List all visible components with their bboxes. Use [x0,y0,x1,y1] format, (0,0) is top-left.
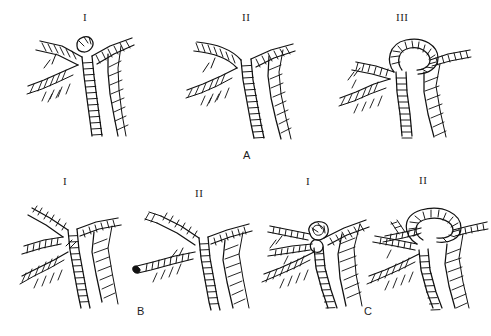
panel-label-c-i: I [306,176,310,187]
panel-c-ii [355,188,491,310]
vessel-group [367,208,488,310]
group-label-c: C [364,306,372,317]
figure-root: I [0,0,491,336]
panel-label-a-iii: III [396,12,409,23]
group-label-a: A [243,150,250,161]
panel-label-a-i: I [83,12,87,23]
group-label-b: B [137,306,144,317]
vessel-group [27,37,134,136]
panel-a-iii [330,24,485,142]
panel-a-ii-drawing [175,26,325,142]
panel-b-ii [125,192,265,310]
vessel-group [20,206,121,308]
panel-a-i-drawing [18,24,168,142]
panel-a-i [18,24,168,142]
vessel-group [133,212,252,310]
panel-label-c-ii: II [419,175,427,186]
panel-label-b-ii: II [195,188,203,199]
vessel-group [339,39,471,138]
vessel-group [262,220,369,308]
panel-label-a-ii: II [242,12,250,23]
panel-a-ii [175,26,325,142]
panel-a-iii-drawing [330,24,485,142]
vessel-group [186,42,295,139]
panel-b-ii-drawing [125,192,265,310]
panel-label-b-i: I [63,176,67,187]
panel-c-ii-drawing [355,188,491,310]
